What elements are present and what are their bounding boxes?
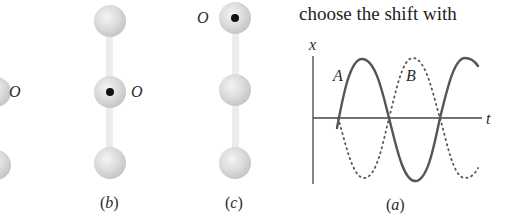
pivot-dot-icon: [231, 14, 239, 22]
caption-c: (c): [225, 194, 243, 212]
pendulum-ball: [94, 147, 126, 179]
caption-paren: ): [399, 196, 404, 213]
caption-a: (a): [386, 196, 405, 214]
curve-b-label: B: [406, 67, 416, 85]
pendulum-ball: [219, 74, 251, 106]
y-axis-label: x: [309, 36, 316, 54]
figure-c-pendulum: [219, 2, 251, 179]
figure-canvas: [0, 0, 505, 220]
caption-paren: ): [237, 194, 242, 211]
figure-b-pendulum: [94, 5, 126, 179]
caption-paren: ): [113, 194, 118, 211]
pivot-label-b: O: [131, 84, 143, 100]
curve-a-label: A: [333, 67, 343, 85]
pivot-label-left: O: [9, 84, 21, 100]
pendulum-ball: [219, 147, 251, 179]
pendulum-ball: [0, 150, 11, 180]
pendulum-ball: [94, 5, 126, 37]
pivot-label-c: O: [197, 10, 209, 26]
x-axis-label: t: [486, 110, 490, 128]
pivot-dot-icon: [106, 88, 114, 96]
caption-b: (b): [100, 194, 119, 212]
